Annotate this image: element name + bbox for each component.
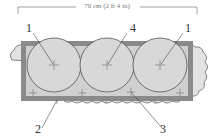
dimension-bracket (18, 7, 197, 14)
callout-1-right: 1 (185, 22, 191, 34)
callout-3: 3 (160, 123, 166, 135)
callout-1-left: 1 (26, 22, 32, 34)
callout-4: 4 (130, 22, 136, 34)
callout-2: 2 (35, 123, 41, 135)
planting-plan-diagram (0, 0, 214, 137)
